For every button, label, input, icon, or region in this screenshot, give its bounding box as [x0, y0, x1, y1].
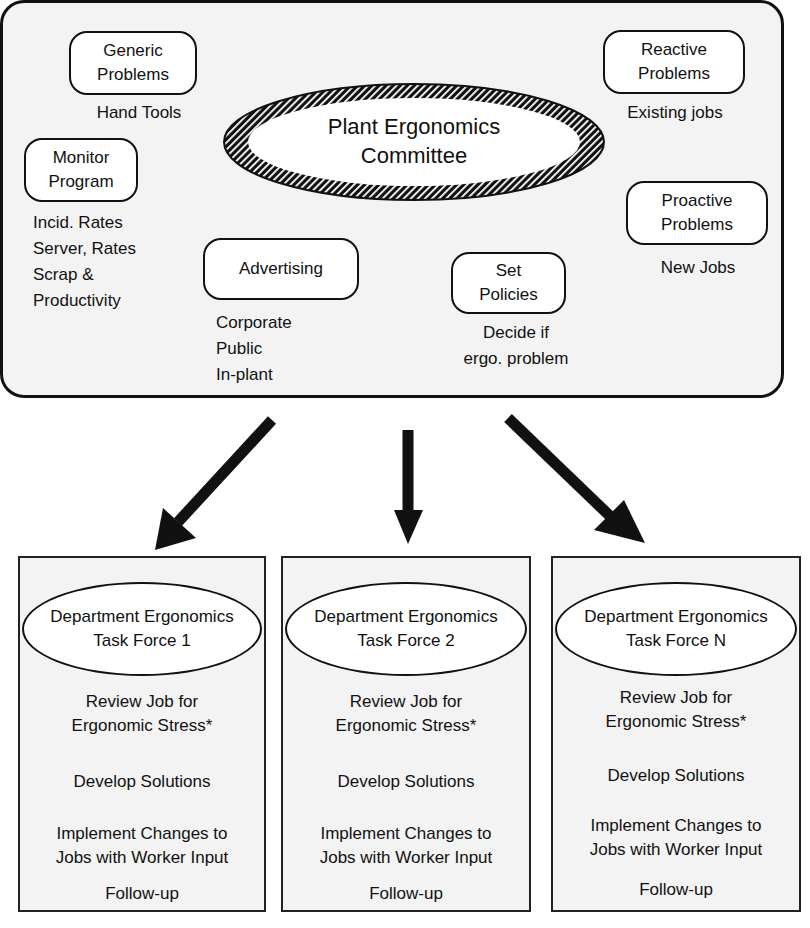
text: Ergonomic Stress*: [20, 714, 264, 738]
label: Reactive: [641, 38, 707, 62]
review-step: Review Job for Ergonomic Stress*: [20, 690, 264, 738]
arrow-to-task-force-2: [394, 430, 423, 544]
implement-step: Implement Changes to Jobs with Worker In…: [553, 814, 799, 862]
title: Task Force 1: [93, 629, 190, 653]
task-force-2-box: Department Ergonomics Task Force 2 Revie…: [281, 556, 531, 912]
title: Department Ergonomics: [50, 605, 233, 629]
task-force-1-oval: Department Ergonomics Task Force 1: [22, 582, 262, 676]
text: Implement Changes to: [20, 822, 264, 846]
text: Review Job for: [283, 690, 529, 714]
advertising-details: Corporate Public In-plant: [216, 310, 292, 388]
committee-title: Plant Ergonomics Committee: [244, 112, 584, 170]
monitor-program-details: Incid. Rates Server, Rates Scrap & Produ…: [33, 210, 136, 314]
monitor-program-box: Monitor Program: [24, 138, 138, 202]
set-policies-details: Decide if ergo. problem: [446, 320, 586, 372]
follow-up-step: Follow-up: [20, 882, 264, 906]
text: Review Job for: [553, 686, 799, 710]
detail: ergo. problem: [446, 346, 586, 372]
develop-step: Develop Solutions: [20, 770, 264, 794]
label: Set: [496, 259, 522, 283]
text: Jobs with Worker Input: [553, 838, 799, 862]
generic-problems-detail: Hand Tools: [84, 100, 194, 126]
text: Jobs with Worker Input: [20, 846, 264, 870]
committee-title-line-1: Plant Ergonomics: [244, 112, 584, 141]
reactive-problems-detail: Existing jobs: [610, 100, 740, 126]
review-step: Review Job for Ergonomic Stress*: [283, 690, 529, 738]
set-policies-box: Set Policies: [451, 252, 566, 314]
title: Department Ergonomics: [314, 605, 497, 629]
task-force-n-box: Department Ergonomics Task Force N Revie…: [551, 556, 801, 912]
detail: Scrap &: [33, 262, 136, 288]
reactive-problems-box: Reactive Problems: [603, 30, 745, 94]
detail: Public: [216, 336, 292, 362]
label: Program: [48, 170, 113, 194]
label: Generic: [103, 39, 163, 63]
title: Department Ergonomics: [584, 605, 767, 629]
implement-step: Implement Changes to Jobs with Worker In…: [20, 822, 264, 870]
committee-title-line-2: Committee: [244, 141, 584, 170]
title: Task Force N: [626, 629, 726, 653]
detail: Server, Rates: [33, 236, 136, 262]
follow-up-step: Follow-up: [553, 878, 799, 902]
develop-step: Develop Solutions: [553, 764, 799, 788]
detail: In-plant: [216, 362, 292, 388]
label: Proactive: [662, 189, 733, 213]
label: Monitor: [53, 146, 110, 170]
text: Implement Changes to: [553, 814, 799, 838]
task-force-1-box: Department Ergonomics Task Force 1 Revie…: [18, 556, 266, 912]
advertising-box: Advertising: [203, 238, 359, 300]
label: Problems: [638, 62, 710, 86]
text: Implement Changes to: [283, 822, 529, 846]
proactive-problems-detail: New Jobs: [636, 255, 760, 281]
arrow-to-task-force-1: [155, 420, 272, 550]
task-force-n-oval: Department Ergonomics Task Force N: [555, 582, 797, 676]
text: Jobs with Worker Input: [283, 846, 529, 870]
label: Problems: [661, 213, 733, 237]
text: Ergonomic Stress*: [553, 710, 799, 734]
detail: Corporate: [216, 310, 292, 336]
proactive-problems-box: Proactive Problems: [626, 181, 768, 245]
review-step: Review Job for Ergonomic Stress*: [553, 686, 799, 734]
develop-step: Develop Solutions: [283, 770, 529, 794]
text: Ergonomic Stress*: [283, 714, 529, 738]
text: Review Job for: [20, 690, 264, 714]
label: Advertising: [239, 257, 323, 281]
generic-problems-box: Generic Problems: [69, 31, 197, 95]
arrow-to-task-force-n: [508, 418, 645, 543]
title: Task Force 2: [357, 629, 454, 653]
label: Policies: [479, 283, 538, 307]
detail: Incid. Rates: [33, 210, 136, 236]
follow-up-step: Follow-up: [283, 882, 529, 906]
task-force-2-oval: Department Ergonomics Task Force 2: [285, 582, 527, 676]
implement-step: Implement Changes to Jobs with Worker In…: [283, 822, 529, 870]
label: Problems: [97, 63, 169, 87]
detail: Decide if: [446, 320, 586, 346]
detail: Productivity: [33, 288, 136, 314]
